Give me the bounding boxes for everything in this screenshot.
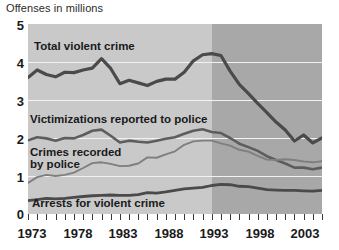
x-tickmark: [37, 214, 38, 220]
x-tickmark: [294, 214, 295, 220]
y-tick-0: 0: [6, 208, 24, 221]
x-tickmark: [157, 214, 158, 220]
y-tick-5: 5: [6, 19, 24, 32]
y-tick-4: 4: [6, 57, 24, 70]
y-tick-3: 3: [6, 95, 24, 108]
series-label-victimizations-reported: Victimizations reported to police: [30, 113, 207, 125]
chart-title: Offenses in millions: [6, 2, 103, 14]
x-tick-1973: 1973: [18, 226, 47, 241]
x-tickmark: [56, 214, 57, 220]
x-tick-1983: 1983: [109, 226, 138, 241]
series-label-crimes-line2: by police: [30, 158, 80, 170]
x-tickmark: [239, 214, 240, 220]
x-tickmark: [230, 214, 231, 220]
x-tickmark: [322, 214, 323, 220]
x-tickmark: [184, 214, 185, 220]
x-tickmark: [46, 214, 47, 220]
x-tickmark: [92, 214, 93, 220]
x-tickmark: [304, 214, 305, 220]
x-tickmark: [212, 214, 213, 220]
x-tickmark: [28, 214, 29, 220]
x-tick-2003: 2003: [291, 226, 320, 241]
x-tick-1978: 1978: [64, 226, 93, 241]
x-tickmark: [129, 214, 130, 220]
x-tickmark: [203, 214, 204, 220]
series-label-crimes-recorded: Crimes recorded by police: [30, 146, 121, 171]
x-tickmark: [65, 214, 66, 220]
x-tickmark: [138, 214, 139, 220]
x-tickmark: [249, 214, 250, 220]
series-label-total-violent-crime: Total violent crime: [34, 40, 135, 52]
x-tickmark: [313, 214, 314, 220]
line-total-violent-crime: [28, 54, 322, 143]
x-tickmark: [102, 214, 103, 220]
x-tick-1988: 1988: [155, 226, 184, 241]
y-tick-1: 1: [6, 171, 24, 184]
x-axis-ticks: [28, 214, 322, 221]
x-tickmark: [83, 214, 84, 220]
x-tickmark: [193, 214, 194, 220]
x-tickmark: [258, 214, 259, 220]
x-tickmark: [285, 214, 286, 220]
x-tickmark: [276, 214, 277, 220]
x-tickmark: [166, 214, 167, 220]
x-tick-1998: 1998: [246, 226, 275, 241]
x-tickmark: [111, 214, 112, 220]
x-tickmark: [147, 214, 148, 220]
x-tickmark: [120, 214, 121, 220]
x-tickmark: [175, 214, 176, 220]
chart-container: Offenses in millions 5 4 3 2 1 0 Total v…: [0, 0, 339, 250]
series-label-crimes-line1: Crimes recorded: [30, 146, 121, 158]
series-label-arrests-violent-crime: Arrests for violent crime: [32, 197, 165, 209]
y-tick-2: 2: [6, 133, 24, 146]
x-tickmark: [267, 214, 268, 220]
x-tickmark: [74, 214, 75, 220]
x-tickmark: [221, 214, 222, 220]
x-tick-1993: 1993: [200, 226, 229, 241]
